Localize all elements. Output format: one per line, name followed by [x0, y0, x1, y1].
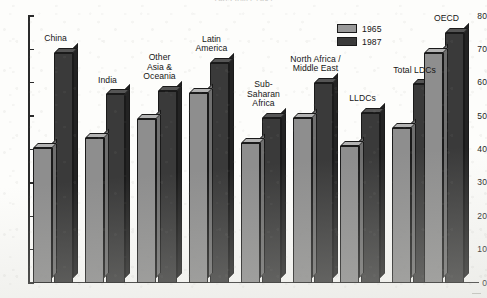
bar-side-face — [208, 83, 213, 278]
bar-1965 — [293, 118, 312, 283]
bar-side-face — [52, 138, 57, 278]
legend-swatch-1987-icon — [337, 37, 357, 46]
bar-side-face — [104, 128, 109, 278]
bar-side-face — [260, 133, 265, 278]
bar-side-face — [125, 84, 130, 278]
legend-item-1965: 1965 — [337, 23, 382, 34]
legend-swatch-1965-icon — [337, 24, 357, 33]
category-label: North Africa / Middle East — [276, 55, 356, 74]
bar-side-face — [156, 109, 161, 278]
bar-side-face — [177, 81, 182, 278]
chart-legend: 1965 1987 — [337, 23, 382, 49]
category-label: LLDCs — [323, 94, 403, 104]
category-label: OECD — [407, 14, 487, 24]
legend-label-1987: 1987 — [362, 37, 382, 47]
scan-corner-mark — [472, 293, 481, 295]
bar-front-face — [392, 128, 411, 283]
legend-label-1965: 1965 — [362, 24, 382, 34]
bar-side-face — [312, 108, 317, 278]
bar-front-face — [33, 148, 52, 283]
bar-front-face — [85, 138, 104, 283]
category-label: Total LDCs — [375, 66, 455, 76]
category-label: China — [16, 34, 96, 44]
bar-side-face — [443, 43, 448, 278]
category-label: Sub- Saharan Africa — [224, 80, 304, 109]
chart-title: 1965 AND 1987 — [0, 0, 487, 1]
bar-1965 — [392, 128, 411, 283]
bar-front-face — [340, 146, 359, 283]
bar-1965 — [137, 119, 156, 283]
bar-side-face — [281, 108, 286, 278]
chart-container: 1965 AND 1987 01020304050607080 ChinaInd… — [0, 0, 487, 298]
bar-front-face — [189, 93, 208, 283]
bar-side-face — [380, 103, 385, 278]
bar-front-face — [137, 119, 156, 283]
bar-front-face — [293, 118, 312, 283]
bar-1965 — [340, 146, 359, 283]
bar-side-face — [464, 23, 469, 278]
legend-item-1987: 1987 — [337, 36, 382, 47]
bar-side-face — [411, 118, 416, 278]
bar-1965 — [85, 138, 104, 283]
bar-front-face — [241, 143, 260, 283]
bar-1965 — [33, 148, 52, 283]
category-label: Other Asia & Oceania — [120, 53, 200, 82]
bar-front-face — [424, 53, 443, 283]
bar-1965 — [189, 93, 208, 283]
category-label: Latin America — [172, 35, 252, 54]
bar-1965 — [424, 53, 443, 283]
bar-1965 — [241, 143, 260, 283]
bar-side-face — [359, 136, 364, 278]
